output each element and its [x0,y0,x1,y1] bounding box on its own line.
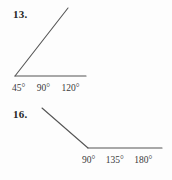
problem-13-number: 13. [13,9,27,20]
problem-16-slanted-ray [42,108,88,148]
problem-16-choice-2[interactable]: 135° [106,156,124,166]
problem-16-choice-1[interactable]: 90° [82,156,95,166]
problem-13-choice-3[interactable]: 120° [61,84,79,94]
problem-16-choice-3[interactable]: 180° [134,156,152,166]
problem-16-choices: 90° 135° 180° [82,156,152,166]
problem-13-choice-2[interactable]: 90° [37,84,50,94]
problem-16-number: 16. [13,109,27,120]
problem-13-choices: 45° 90° 120° [12,84,79,94]
worksheet-page: 13. 45° 90° 120° 16. 90° 135° 180° [0,0,172,180]
problem-13-choice-1[interactable]: 45° [12,84,25,94]
